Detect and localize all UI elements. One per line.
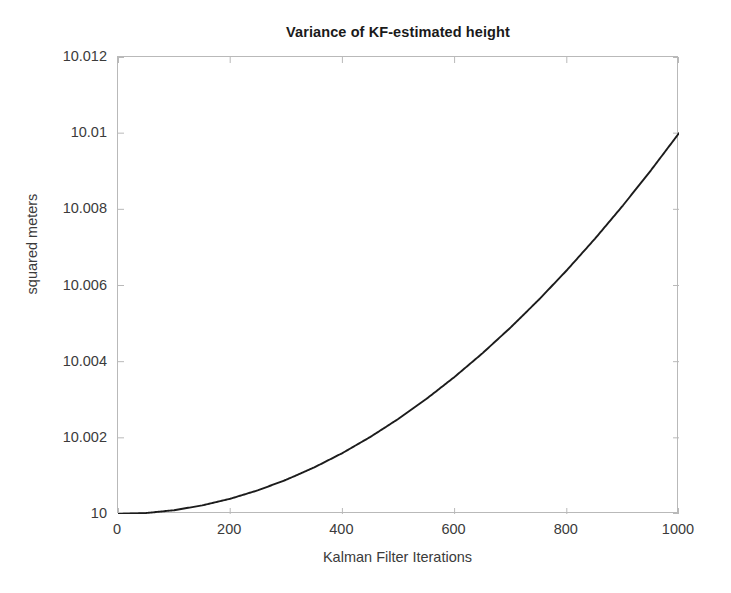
y-axis-label: squared meters bbox=[24, 164, 40, 324]
figure-canvas: Variance of KF-estimated height 1010.002… bbox=[0, 0, 731, 593]
y-tick-label: 10.002 bbox=[63, 429, 107, 445]
x-tick-label: 600 bbox=[441, 521, 465, 537]
plot-svg bbox=[118, 57, 679, 514]
y-axis-tick-labels: 1010.00210.00410.00610.00810.0110.012 bbox=[0, 0, 107, 593]
x-axis-label: Kalman Filter Iterations bbox=[117, 549, 678, 565]
x-tick-label: 0 bbox=[113, 521, 121, 537]
y-tick-label: 10.008 bbox=[63, 200, 107, 216]
plot-area bbox=[117, 56, 678, 513]
chart-title: Variance of KF-estimated height bbox=[117, 24, 679, 40]
y-tick-label: 10.012 bbox=[63, 48, 107, 64]
x-axis-tick-labels: 02004006008001000 bbox=[0, 521, 731, 545]
x-tick-label: 1000 bbox=[662, 521, 694, 537]
y-tick-label: 10.006 bbox=[63, 277, 107, 293]
x-tick-label: 400 bbox=[329, 521, 353, 537]
y-tick-label: 10.01 bbox=[71, 124, 107, 140]
data-series-line bbox=[118, 133, 679, 514]
x-tick-label: 800 bbox=[554, 521, 578, 537]
y-tick-label: 10 bbox=[91, 505, 107, 521]
tick-marks bbox=[118, 57, 679, 514]
y-tick-label: 10.004 bbox=[63, 353, 107, 369]
x-tick-label: 200 bbox=[217, 521, 241, 537]
